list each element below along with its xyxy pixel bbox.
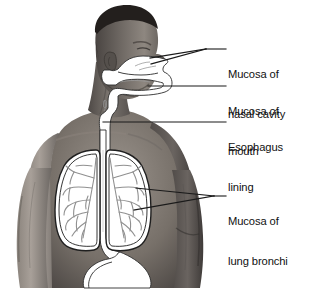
label-esophagus-line1: Esophagus xyxy=(228,141,283,154)
anatomy-figure: Mucosa of nasal cavity Mucosa of mouth E… xyxy=(0,0,320,299)
label-lung-bronchi-line1: Mucosa of xyxy=(228,215,288,228)
label-lung-bronchi: Mucosa of lung bronchi xyxy=(228,189,288,295)
label-lung-bronchi-line2: lung bronchi xyxy=(228,255,288,268)
